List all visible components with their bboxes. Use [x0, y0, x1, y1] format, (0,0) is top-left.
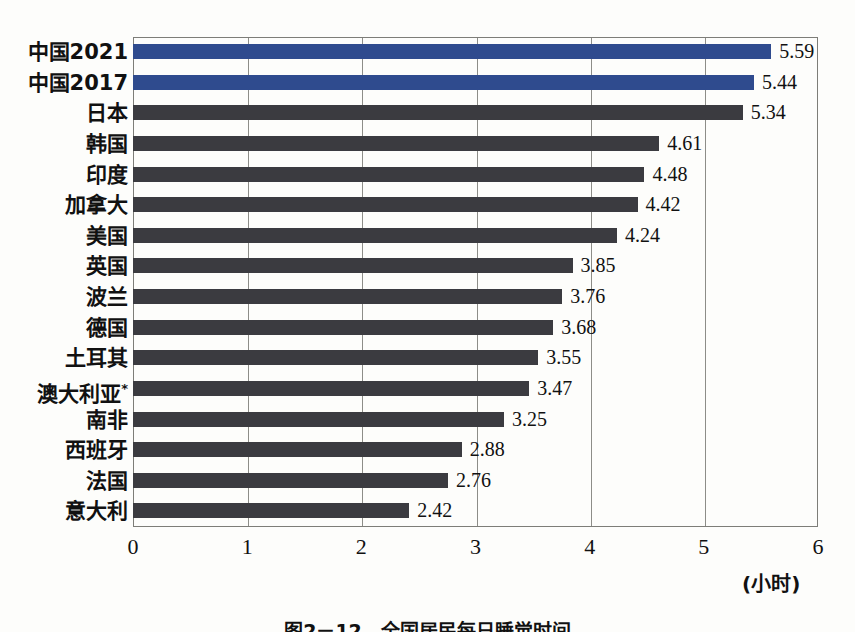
bar-value-label: 5.44 — [762, 70, 797, 94]
bar-value-label: 3.85 — [581, 253, 616, 277]
bar-row: 3.85 — [133, 251, 818, 282]
category-label: 南非 — [0, 408, 128, 432]
category-label: 中国2017 — [0, 71, 128, 95]
bar-row: 3.68 — [133, 313, 818, 344]
bar-row: 5.44 — [133, 68, 818, 99]
bar-value-label: 2.42 — [417, 498, 452, 522]
x-tick-label: 1 — [227, 533, 267, 561]
category-label: 土耳其 — [0, 346, 128, 370]
bar-row: 3.76 — [133, 282, 818, 313]
category-label: 澳大利亚* — [0, 377, 128, 401]
category-label: 波兰 — [0, 285, 128, 309]
bar-row: 3.55 — [133, 343, 818, 374]
category-label: 意大利 — [0, 499, 128, 523]
x-tick-label: 3 — [456, 533, 496, 561]
bar-row: 4.48 — [133, 160, 818, 191]
bar-value-label: 3.25 — [512, 407, 547, 431]
category-label: 英国 — [0, 254, 128, 278]
bar-row: 3.25 — [133, 405, 818, 436]
bar — [133, 320, 553, 335]
bar — [133, 503, 409, 518]
x-axis-ticks: 0123456 — [133, 533, 818, 565]
bar — [133, 289, 562, 304]
bar-value-label: 2.76 — [456, 468, 491, 492]
bar-row: 2.88 — [133, 435, 818, 466]
bar-series: 5.595.445.344.614.484.424.243.853.763.68… — [133, 37, 818, 527]
category-label: 中国2021 — [0, 40, 128, 64]
bar-row: 4.24 — [133, 221, 818, 252]
bar-value-label: 3.47 — [537, 376, 572, 400]
bar — [133, 258, 573, 273]
category-label: 日本 — [0, 101, 128, 125]
figure-caption: 图2－12 全国居民每日睡觉时间 — [0, 619, 855, 632]
bar-row: 2.76 — [133, 466, 818, 497]
bar — [133, 473, 448, 488]
bar-row: 5.34 — [133, 98, 818, 129]
x-tick-label: 0 — [113, 533, 153, 561]
category-label: 加拿大 — [0, 193, 128, 217]
x-tick-label: 5 — [684, 533, 724, 561]
bar-row: 2.42 — [133, 496, 818, 527]
bar-value-label: 4.24 — [625, 223, 660, 247]
category-label: 法国 — [0, 469, 128, 493]
bar-value-label: 2.88 — [470, 437, 505, 461]
bar — [133, 350, 538, 365]
category-label: 韩国 — [0, 132, 128, 156]
category-label: 德国 — [0, 316, 128, 340]
bar-value-label: 3.55 — [546, 345, 581, 369]
bar — [133, 136, 659, 151]
x-axis-unit-label: (小时) — [742, 572, 800, 596]
bar — [133, 197, 638, 212]
bar-value-label: 5.34 — [751, 100, 786, 124]
bar-value-label: 4.48 — [652, 162, 687, 186]
bar-value-label: 4.61 — [667, 131, 702, 155]
bar — [133, 44, 771, 59]
bar — [133, 412, 504, 427]
bar — [133, 167, 644, 182]
bar — [133, 75, 754, 90]
x-tick-label: 6 — [798, 533, 838, 561]
bar-value-label: 3.76 — [570, 284, 605, 308]
category-label: 印度 — [0, 163, 128, 187]
chart-page: 中国2021中国2017日本韩国印度加拿大美国英国波兰德国土耳其澳大利亚*南非西… — [0, 0, 855, 632]
bar — [133, 442, 462, 457]
bar-row: 5.59 — [133, 37, 818, 68]
category-label: 美国 — [0, 224, 128, 248]
bar-value-label: 4.42 — [646, 192, 681, 216]
bar-row: 4.42 — [133, 190, 818, 221]
category-label: 西班牙 — [0, 438, 128, 462]
x-tick-label: 4 — [570, 533, 610, 561]
bar-row: 4.61 — [133, 129, 818, 160]
category-axis: 中国2021中国2017日本韩国印度加拿大美国英国波兰德国土耳其澳大利亚*南非西… — [0, 37, 128, 527]
bar-row: 3.47 — [133, 374, 818, 405]
bar — [133, 228, 617, 243]
footnote-asterisk: * — [121, 381, 128, 396]
bar — [133, 105, 743, 120]
bar-value-label: 3.68 — [561, 315, 596, 339]
bar — [133, 381, 529, 396]
x-tick-label: 2 — [341, 533, 381, 561]
bar-value-label: 5.59 — [779, 39, 814, 63]
